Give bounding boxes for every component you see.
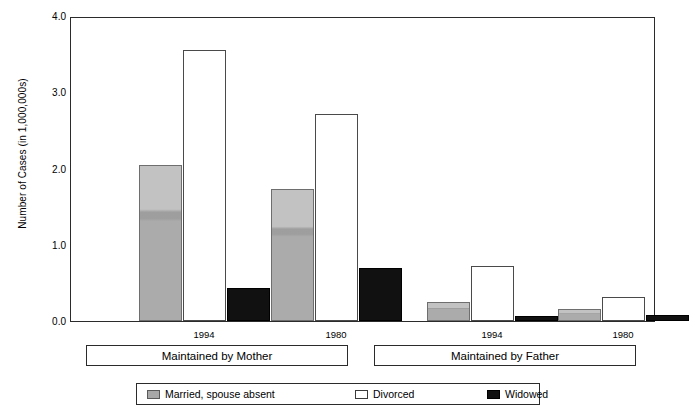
y-tick-label: 4.0 [26,12,66,22]
bar-widowed [646,315,689,321]
bar-divorced [183,50,226,321]
group-label: Maintained by Mother [162,350,273,362]
legend: Married, spouse absentDivorcedWidowed [136,383,540,405]
legend-label: Divorced [373,388,414,400]
bar-married [558,309,601,321]
group-label: Maintained by Father [451,350,559,362]
bar-widowed [359,268,402,321]
y-tick-label: 2.0 [26,165,66,175]
bar-married [271,189,314,321]
y-tick-label: 3.0 [26,88,66,98]
bar-married [427,302,470,321]
legend-item: Married, spouse absent [147,388,275,400]
legend-item: Widowed [487,388,548,400]
legend-label: Married, spouse absent [165,388,275,400]
bar-married [139,165,182,321]
year-label: 1980 [306,329,366,340]
year-label: 1994 [174,329,234,340]
y-tick-label: 0.0 [26,317,66,327]
legend-swatch-widowed [487,390,500,399]
y-tick-label: 1.0 [26,241,66,251]
legend-label: Widowed [505,388,548,400]
year-label: 1994 [462,329,522,340]
bar-divorced [602,297,645,321]
year-label: 1980 [593,329,653,340]
bar-widowed [227,288,270,321]
legend-item: Divorced [355,388,414,400]
plot-area [70,17,655,322]
legend-swatch-married [147,390,160,399]
group-label-box: Maintained by Mother [86,345,348,366]
legend-swatch-divorced [355,390,368,399]
bar-divorced [471,266,514,321]
bar-divorced [315,114,358,321]
group-label-box: Maintained by Father [374,345,636,366]
bar-widowed [515,316,558,321]
